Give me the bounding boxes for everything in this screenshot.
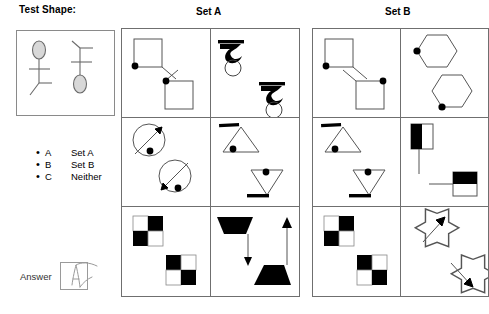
cell-b5: [313, 207, 401, 296]
test-shape-box: [16, 30, 115, 116]
answer-area: Answer: [20, 262, 88, 290]
option-label: Neither: [71, 171, 102, 182]
set-b-grid: [312, 28, 489, 297]
option-label: Set B: [71, 159, 94, 170]
cell-a1: [122, 29, 211, 118]
handwritten-a-icon: [59, 257, 101, 297]
bullet-icon: •: [36, 147, 45, 158]
cell-a5: [122, 207, 211, 296]
bullet-icon: •: [36, 171, 45, 182]
option-b[interactable]: • B Set B: [36, 158, 132, 170]
set-b-title: Set B: [385, 6, 411, 17]
cell-a4: [211, 118, 300, 207]
test-shape-title: Test Shape:: [19, 4, 76, 15]
test-shape-drawing: [17, 31, 114, 115]
cell-a2: [211, 29, 300, 118]
option-a[interactable]: • A Set A: [36, 146, 132, 158]
answer-input-box[interactable]: [60, 262, 88, 290]
option-label: Set A: [71, 147, 94, 158]
cell-b4: [401, 118, 489, 207]
set-a-title: Set A: [196, 6, 221, 17]
cell-b3: [313, 118, 401, 207]
cell-b2: [401, 29, 489, 118]
answer-label: Answer: [20, 271, 52, 282]
option-letter: C: [45, 171, 71, 182]
answer-options: • A Set A • B Set B • C Neither: [36, 146, 132, 182]
set-a-grid: [121, 28, 300, 297]
cell-b6: [401, 207, 489, 296]
option-c[interactable]: • C Neither: [36, 170, 132, 182]
cell-b1: [313, 29, 401, 118]
bullet-icon: •: [36, 159, 45, 170]
option-letter: A: [45, 147, 71, 158]
cell-a6: [211, 207, 300, 296]
option-letter: B: [45, 159, 71, 170]
cell-a3: [122, 118, 211, 207]
puzzle-page: Test Shape: • A Set A: [0, 0, 489, 314]
